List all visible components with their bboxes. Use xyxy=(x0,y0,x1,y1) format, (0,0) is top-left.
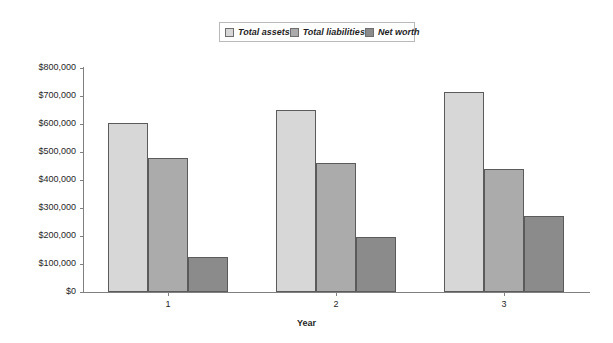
y-tick-mark xyxy=(80,180,84,181)
y-tick-label: $500,000 xyxy=(38,146,76,156)
x-tick-label: 3 xyxy=(484,299,524,309)
bar-chart: Total assetsTotal liabilitiesNet worth Y… xyxy=(0,0,613,343)
legend-label: Net worth xyxy=(378,28,420,37)
y-tick-label: $300,000 xyxy=(38,202,76,212)
bar[interactable] xyxy=(356,237,396,292)
bar[interactable] xyxy=(316,163,356,292)
y-tick-mark xyxy=(80,292,84,293)
y-tick-label: $200,000 xyxy=(38,230,76,240)
y-tick-label: $700,000 xyxy=(38,90,76,100)
legend-entry[interactable]: Total liabilities xyxy=(290,28,365,37)
y-tick-mark xyxy=(80,236,84,237)
y-tick-label: $400,000 xyxy=(38,174,76,184)
y-tick-mark xyxy=(80,68,84,69)
legend-entry[interactable]: Net worth xyxy=(365,28,420,37)
y-tick-label: $800,000 xyxy=(38,62,76,72)
x-tick-mark xyxy=(336,292,337,296)
bar[interactable] xyxy=(524,216,564,292)
legend-swatch-icon xyxy=(365,28,374,37)
y-tick-mark xyxy=(80,152,84,153)
x-tick-label: 1 xyxy=(148,299,188,309)
bar[interactable] xyxy=(444,92,484,292)
y-tick-mark xyxy=(80,264,84,265)
bar[interactable] xyxy=(148,158,188,292)
bar[interactable] xyxy=(276,110,316,292)
x-tick-mark xyxy=(504,292,505,296)
bar[interactable] xyxy=(108,123,148,292)
legend-swatch-icon xyxy=(225,28,234,37)
bar[interactable] xyxy=(484,169,524,292)
y-tick-mark xyxy=(80,208,84,209)
y-tick-label: $600,000 xyxy=(38,118,76,128)
x-axis-title: Year xyxy=(0,318,613,328)
y-tick-mark xyxy=(80,96,84,97)
legend-swatch-icon xyxy=(290,28,299,37)
y-tick-label: $0 xyxy=(66,286,76,296)
bar[interactable] xyxy=(188,257,228,292)
y-tick-mark xyxy=(80,124,84,125)
x-tick-mark xyxy=(168,292,169,296)
x-tick-label: 2 xyxy=(316,299,356,309)
y-tick-label: $100,000 xyxy=(38,258,76,268)
legend-entry[interactable]: Total assets xyxy=(225,28,290,37)
legend-label: Total liabilities xyxy=(303,28,365,37)
legend-label: Total assets xyxy=(238,28,290,37)
chart-legend: Total assetsTotal liabilitiesNet worth xyxy=(219,22,415,42)
